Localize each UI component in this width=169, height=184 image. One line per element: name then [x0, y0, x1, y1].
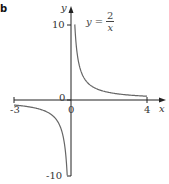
x-tick-label-4: 4 — [144, 105, 150, 115]
x-axis-label: x — [159, 104, 165, 114]
y-tick-label-10: 10 — [52, 20, 65, 30]
equation-numerator: 2 — [106, 10, 114, 22]
equation-lhs: y — [86, 16, 92, 27]
y-tick-label-neg10: -10 — [46, 171, 62, 181]
equation-equals: = — [95, 16, 103, 27]
y-tick-label-0: 0 — [59, 93, 65, 103]
x-axis-arrow-icon — [159, 98, 166, 103]
x-tick-label-neg3: -3 — [10, 105, 20, 115]
equation-denominator: x — [107, 22, 113, 33]
y-axis-arrow-icon — [69, 6, 74, 13]
y-axis-label: y — [61, 3, 67, 13]
equation-fraction: 2 x — [106, 10, 114, 33]
curve-positive-branch — [75, 25, 147, 97]
equation-annotation: y = 2 x — [86, 10, 114, 33]
x-tick-label-0: 0 — [68, 105, 74, 115]
curve-negative-branch — [14, 105, 67, 175]
plot-area — [0, 0, 169, 184]
